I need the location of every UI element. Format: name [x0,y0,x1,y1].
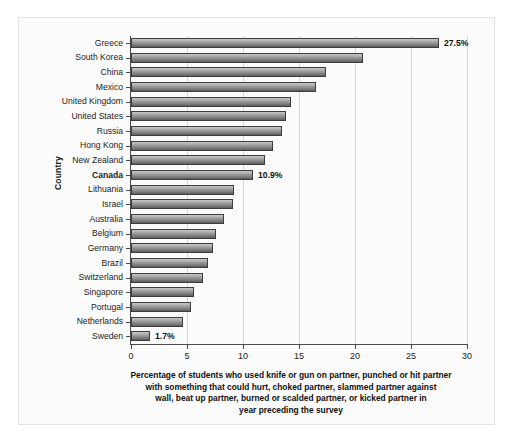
bar-brazil [131,258,208,268]
bar-canada [131,170,253,180]
category-label-portugal: Portugal [91,300,123,315]
bar-row: Hong Kong [131,139,467,154]
bar-south-korea [131,53,363,63]
bar-australia [131,214,224,224]
bar-united-states [131,111,286,121]
category-label-netherlands: Netherlands [77,314,123,329]
category-label-united-kingdom: United Kingdom [62,94,123,109]
category-label-south-korea: South Korea [75,50,123,65]
bar-row: United Kingdom [131,95,467,110]
bar-sweden [131,331,150,341]
bar-lithuania [131,185,234,195]
bar-row: Belgium [131,227,467,242]
bar-row: Israel [131,197,467,212]
plot-area: Greece27.5%South KoreaChinaMexicoUnited … [131,36,467,344]
caption-line-2: with something that could hurt, choked p… [146,382,437,392]
data-label-greece: 27.5% [444,36,468,51]
caption-line-3: wall, beat up partner, burned or scalded… [155,393,426,403]
bar-row: Russia [131,124,467,139]
chart-frame: Country Greece27.5%South KoreaChinaMexic… [18,17,495,425]
category-label-singapore: Singapore [84,285,123,300]
category-label-germany: Germany [88,241,123,256]
data-label-canada: 10.9% [258,168,282,183]
bar-united-kingdom [131,97,291,107]
category-label-sweden: Sweden [92,329,123,344]
bar-row: Australia [131,212,467,227]
category-label-china: China [101,65,123,80]
x-tick-5 [187,344,188,349]
data-label-sweden: 1.7% [155,329,175,344]
caption-line-4: year preceding the survey [239,405,343,415]
bar-row: Lithuania [131,183,467,198]
bar-row: Singapore [131,285,467,300]
bar-row: Mexico [131,80,467,95]
category-label-greece: Greece [95,36,123,51]
category-label-hong-kong: Hong Kong [80,138,123,153]
x-tick-label-15: 15 [294,351,304,361]
category-label-brazil: Brazil [102,256,124,271]
bar-row: Sweden1.7% [131,329,467,344]
x-tick-label-20: 20 [350,351,360,361]
bar-row: Germany [131,241,467,256]
x-tick-15 [299,344,300,349]
category-label-united-states: United States [71,109,123,124]
bar-row: Switzerland [131,271,467,286]
bar-hong-kong [131,141,273,151]
x-tick-label-30: 30 [462,351,472,361]
x-tick-label-5: 5 [184,351,189,361]
bar-switzerland [131,273,203,283]
bar-germany [131,243,213,253]
category-label-mexico: Mexico [96,80,123,95]
category-label-australia: Australia [90,212,123,227]
x-tick-20 [355,344,356,349]
bar-belgium [131,229,216,239]
bar-russia [131,126,282,136]
category-label-russia: Russia [97,124,123,139]
bar-row: United States [131,109,467,124]
category-label-belgium: Belgium [92,226,123,241]
x-tick-30 [467,344,468,349]
x-tick-label-10: 10 [238,351,248,361]
bar-row: New Zealand [131,153,467,168]
bar-row: Canada10.9% [131,168,467,183]
bar-netherlands [131,317,183,327]
x-tick-label-0: 0 [128,351,133,361]
category-label-switzerland: Switzerland [79,270,123,285]
category-label-canada: Canada [92,168,123,183]
bar-greece [131,38,439,48]
x-tick-0 [131,344,132,349]
bar-singapore [131,287,194,297]
category-label-new-zealand: New Zealand [72,153,123,168]
bar-mexico [131,82,316,92]
chart-figure: Country Greece27.5%South KoreaChinaMexic… [0,0,513,439]
category-label-lithuania: Lithuania [88,182,123,197]
bar-row: Greece27.5% [131,36,467,51]
bar-row: Portugal [131,300,467,315]
bar-portugal [131,302,191,312]
bar-row: Netherlands [131,315,467,330]
caption-line-1: Percentage of students who used knife or… [130,370,451,380]
bar-china [131,67,326,77]
bar-new-zealand [131,155,265,165]
x-tick-25 [411,344,412,349]
bar-israel [131,199,233,209]
x-tick-10 [243,344,244,349]
y-axis-title: Country [53,128,63,218]
gridline-30 [467,36,468,344]
category-label-israel: Israel [102,197,123,212]
bar-row: China [131,65,467,80]
x-tick-label-25: 25 [406,351,416,361]
chart-caption: Percentage of students who used knife or… [111,370,471,416]
bar-row: South Korea [131,51,467,66]
bar-row: Brazil [131,256,467,271]
